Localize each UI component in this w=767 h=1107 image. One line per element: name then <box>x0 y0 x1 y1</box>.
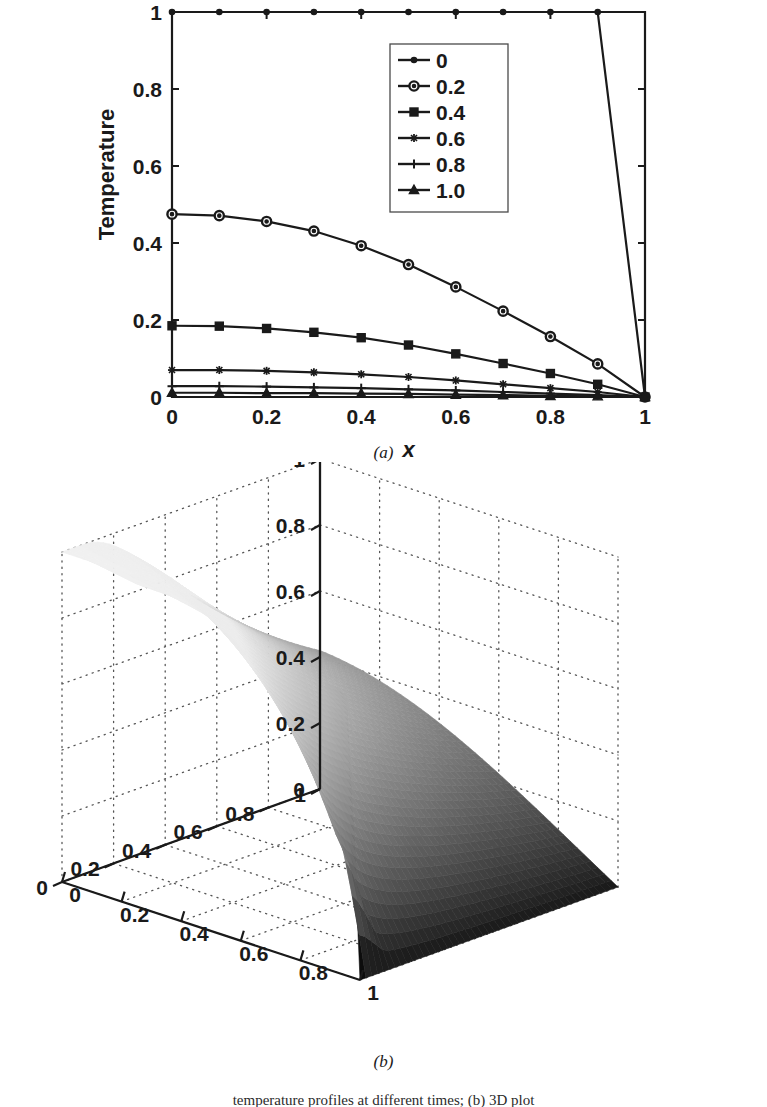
line-chart-svg: 00.20.40.60.8100.20.40.60.81xTemperature… <box>0 0 767 470</box>
right-axis-tick-label: 0 <box>69 883 81 906</box>
z-tick-label: 0.6 <box>276 580 305 603</box>
panel-a-line-chart: 00.20.40.60.8100.20.40.60.81xTemperature… <box>0 0 767 470</box>
z-tick-label: 0.4 <box>276 646 306 669</box>
data-point-marker <box>169 9 174 14</box>
back-wall-grid-line <box>320 525 618 623</box>
left-axis-tick-label: 0 <box>36 876 48 899</box>
data-point-marker <box>263 324 271 332</box>
data-point-marker <box>452 350 460 358</box>
right-axis-tick-label: 0.6 <box>239 942 268 965</box>
data-point-marker <box>170 213 173 216</box>
data-point-marker <box>357 334 365 342</box>
legend-label: 0.8 <box>436 153 466 176</box>
x-tick-label: 0 <box>166 405 178 428</box>
data-point-marker <box>595 9 600 14</box>
right-axis-tick-label: 0.2 <box>120 903 149 926</box>
data-point-marker <box>502 310 505 313</box>
z-tick-label: 0.2 <box>276 712 305 735</box>
figure-bottom-caption: temperature profiles at different times;… <box>0 1092 767 1107</box>
data-point-marker <box>546 370 554 378</box>
data-point-marker <box>411 57 416 62</box>
data-point-marker <box>499 360 507 368</box>
data-point-marker <box>410 108 418 116</box>
data-point-marker <box>454 285 457 288</box>
y-tick-label: 0.4 <box>133 232 163 255</box>
right-axis-tick-label: 1 <box>367 981 379 1004</box>
data-point-marker <box>549 335 552 338</box>
z-tick <box>311 462 320 464</box>
left-axis-tick-label: 0.6 <box>174 820 203 843</box>
data-point-marker <box>594 380 602 388</box>
x-tick-label: 0.8 <box>536 405 566 428</box>
legend-label: 0.4 <box>436 101 466 124</box>
data-point-marker <box>310 328 318 336</box>
z-tick-label: 0.8 <box>276 514 306 537</box>
data-point-marker <box>405 341 413 349</box>
right-axis-tick-label: 0.4 <box>180 922 210 945</box>
y-tick-label: 0 <box>150 386 162 409</box>
panel-b-surface-chart: 00.20.40.60.8110.80.60.40.2000.20.40.60.… <box>0 462 767 1087</box>
z-tick-label: 1 <box>293 462 305 471</box>
legend-label: 0.6 <box>436 127 465 150</box>
data-point-marker <box>453 9 458 14</box>
y-tick-label: 0.8 <box>133 78 163 101</box>
data-point-marker <box>217 9 222 14</box>
data-point-marker <box>406 9 411 14</box>
x-tick-label: 0.2 <box>252 405 281 428</box>
right-axis-tick <box>181 911 184 921</box>
series-0-2 <box>167 210 649 402</box>
right-axis-tick-label: 0.8 <box>299 961 329 984</box>
right-axis-tick <box>300 950 303 960</box>
left-axis-tick-label: 0.8 <box>225 802 255 825</box>
data-point-marker <box>265 220 268 223</box>
left-wall-grid-line <box>62 462 320 552</box>
back-wall-grid-line <box>320 462 618 557</box>
left-axis-tick <box>53 882 62 886</box>
left-axis-tick-label: 0.2 <box>70 857 99 880</box>
surface-chart-svg: 00.20.40.60.8110.80.60.40.2000.20.40.60.… <box>0 462 767 1087</box>
data-point-marker <box>312 229 315 232</box>
figure-container: 00.20.40.60.8100.20.40.60.81xTemperature… <box>0 0 767 1107</box>
data-point-marker <box>596 362 599 365</box>
data-point-marker <box>548 9 553 14</box>
data-point-marker <box>407 263 410 266</box>
right-axis-tick <box>241 931 244 941</box>
data-point-marker <box>359 9 364 14</box>
data-point-marker <box>360 244 363 247</box>
y-tick-label: 1 <box>150 1 162 24</box>
x-tick-label: 0.4 <box>347 405 377 428</box>
legend-label: 1.0 <box>436 179 465 202</box>
y-axis-label: Temperature <box>94 109 119 241</box>
data-point-marker <box>264 9 269 14</box>
left-axis-tick-label: 1 <box>294 783 306 806</box>
legend-label: 0 <box>436 49 448 72</box>
chart-legend: 00.20.40.60.81.0 <box>390 44 508 212</box>
data-point-marker <box>168 322 176 330</box>
z-tick <box>311 591 320 596</box>
right-axis-tick <box>122 892 125 902</box>
data-point-marker <box>215 322 223 330</box>
panel-a-caption: (a) <box>0 443 767 463</box>
data-point-marker <box>218 214 221 217</box>
left-axis-tick-label: 0.4 <box>122 839 152 862</box>
x-tick-label: 1 <box>639 405 651 428</box>
data-point-marker <box>311 9 316 14</box>
data-point-marker <box>501 9 506 14</box>
data-point-marker <box>412 84 415 87</box>
y-tick-label: 0.2 <box>133 309 162 332</box>
y-tick-label: 0.6 <box>133 155 162 178</box>
legend-label: 0.2 <box>436 75 465 98</box>
panel-b-caption: (b) <box>0 1052 767 1072</box>
z-tick <box>311 525 320 530</box>
x-tick-label: 0.6 <box>441 405 470 428</box>
